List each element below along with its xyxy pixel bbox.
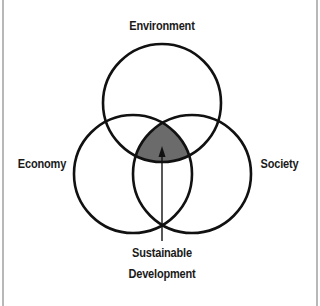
- label-development: Development: [118, 267, 206, 281]
- venn-diagram: Environment Economy Society Sustainable …: [0, 0, 320, 306]
- venn-graphic: [0, 0, 320, 306]
- label-economy: Economy: [16, 157, 69, 171]
- label-sustainable: Sustainable: [118, 246, 206, 260]
- label-environment: Environment: [118, 19, 206, 33]
- label-society: Society: [255, 157, 303, 171]
